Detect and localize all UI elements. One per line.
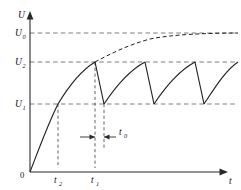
- t0-arrow-left-head-icon: [90, 134, 96, 139]
- discharge-edge-3: [195, 62, 204, 104]
- level-sublabel-u1: 1: [23, 104, 26, 111]
- time-label-t2: t: [54, 175, 57, 185]
- diagram-canvas: U t 0 U 0 U 2 U 1 t 2 t 1 t 0: [0, 0, 241, 190]
- recharge-curve-1: [104, 62, 145, 104]
- origin-label: 0: [20, 170, 24, 180]
- annotation-sublabel-t0: 0: [124, 132, 128, 139]
- x-axis-label: t: [229, 176, 232, 186]
- voltage-time-diagram: U t 0 U 0 U 2 U 1 t 2 t 1 t 0: [0, 0, 241, 190]
- time-sublabel-t2: 2: [59, 180, 63, 187]
- annotation-label-t0: t: [119, 127, 122, 137]
- initial-charging-curve: [30, 62, 95, 172]
- y-axis-label: U: [18, 10, 26, 20]
- t0-arrow-right-head-icon: [104, 134, 110, 139]
- discharge-edge-2: [145, 62, 154, 104]
- time-sublabel-t1: 1: [96, 180, 99, 187]
- discharge-edge-1: [95, 62, 104, 104]
- asymptote-curve: [95, 33, 238, 62]
- level-sublabel-u0: 0: [23, 33, 27, 40]
- recharge-curve-2: [154, 62, 195, 104]
- y-axis-arrow-icon: [27, 11, 34, 20]
- time-label-t1: t: [91, 175, 94, 185]
- x-axis-arrow-icon: [220, 169, 229, 176]
- recharge-curve-3: [204, 62, 238, 104]
- level-sublabel-u2: 2: [23, 62, 27, 69]
